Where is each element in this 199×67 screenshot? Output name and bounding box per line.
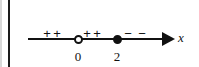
open-circle-point-0 xyxy=(74,35,83,44)
sign-mark: − xyxy=(137,27,147,40)
axis-label-x: x xyxy=(178,31,184,44)
sign-mark: + xyxy=(82,27,92,40)
arrow-right-icon xyxy=(162,32,175,46)
closed-circle-point-2 xyxy=(113,35,122,44)
sign-mark: + xyxy=(92,27,102,40)
sign-mark: + xyxy=(42,27,52,40)
point-label-2: 2 xyxy=(109,50,125,63)
sign-mark: + xyxy=(52,27,62,40)
page-margin-rule xyxy=(8,0,10,67)
point-label-0: 0 xyxy=(70,50,86,63)
page-edge-rule xyxy=(0,0,2,67)
number-line-figure: x + + + + − − 0 2 xyxy=(0,0,199,67)
sign-mark: − xyxy=(123,27,133,40)
